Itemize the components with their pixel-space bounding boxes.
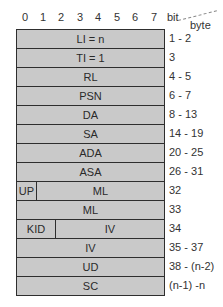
byte-range: 1 - 2	[169, 32, 191, 44]
field-ada: ADA	[17, 144, 164, 162]
bit-number-5: 5	[111, 11, 123, 23]
table-row-psn: PSN 6 - 7	[17, 86, 164, 105]
field-sa: SA	[17, 125, 164, 143]
field-iv: IV	[56, 220, 164, 238]
field-ti: TI = 1	[17, 49, 164, 67]
table-row-rl: RL 4 - 5	[17, 67, 164, 86]
table-row-sc: SC (n-1) -n	[17, 276, 164, 295]
table-row-ud: UD 38 - (n-2)	[17, 257, 164, 276]
table-row-kid-iv: KID IV 34	[17, 219, 164, 238]
byte-range: 26 - 31	[169, 165, 203, 177]
byte-range: 34	[169, 222, 181, 234]
field-psn: PSN	[17, 87, 164, 105]
field-li: LI = n	[17, 30, 164, 48]
byte-range: 20 - 25	[169, 146, 203, 158]
byte-range: 38 - (n-2)	[169, 260, 214, 272]
byte-range: 33	[169, 203, 181, 215]
byte-range: 4 - 5	[169, 70, 191, 82]
table-row-ml: ML 33	[17, 200, 164, 219]
bit-number-1: 1	[37, 11, 49, 23]
byte-range: 3	[169, 51, 175, 63]
frame-format-table: LI = n 1 - 2 TI = 1 3 RL 4 - 5 PSN 6 - 7…	[16, 29, 165, 296]
table-row-ti: TI = 1 3	[17, 48, 164, 67]
field-ud: UD	[17, 258, 164, 276]
table-row-sa: SA 14 - 19	[17, 124, 164, 143]
table-row-ada: ADA 20 - 25	[17, 143, 164, 162]
field-ml: ML	[17, 201, 164, 219]
byte-range: 14 - 19	[169, 127, 203, 139]
bit-number-0: 0	[19, 11, 31, 23]
byte-range: 32	[169, 184, 181, 196]
byte-axis-label: byte	[190, 19, 211, 31]
field-up: UP	[17, 182, 37, 200]
bit-number-2: 2	[55, 11, 67, 23]
bit-number-4: 4	[92, 11, 104, 23]
field-rl: RL	[17, 68, 164, 86]
table-row-iv: IV 35 - 37	[17, 238, 164, 257]
table-row-up-ml: UP ML 32	[17, 181, 164, 200]
bit-number-3: 3	[74, 11, 86, 23]
byte-range: 6 - 7	[169, 89, 191, 101]
byte-range: (n-1) -n	[169, 279, 205, 291]
table-row-asa: ASA 26 - 31	[17, 162, 164, 181]
table-row-da: DA 8 - 13	[17, 105, 164, 124]
field-kid: KID	[17, 220, 56, 238]
byte-range: 35 - 37	[169, 241, 203, 253]
bit-axis-label: bit	[167, 11, 179, 23]
field-asa: ASA	[17, 163, 164, 181]
field-ml: ML	[37, 182, 164, 200]
field-da: DA	[17, 106, 164, 124]
byte-range: 8 - 13	[169, 108, 197, 120]
bit-number-6: 6	[129, 11, 141, 23]
bit-number-7: 7	[148, 11, 160, 23]
table-row-li: LI = n 1 - 2	[17, 30, 164, 48]
field-iv: IV	[17, 239, 164, 257]
field-sc: SC	[17, 277, 164, 295]
